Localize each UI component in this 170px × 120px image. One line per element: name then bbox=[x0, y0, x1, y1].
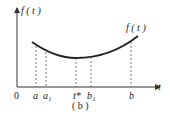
curve-label: f ( t ) bbox=[126, 22, 146, 33]
tick-label-a: a bbox=[33, 90, 38, 101]
origin-label: 0 bbox=[14, 90, 19, 101]
tick-label-a1: a₁ bbox=[43, 90, 51, 101]
tick-label-b: b bbox=[129, 90, 134, 101]
x-axis-label: t bbox=[158, 81, 161, 92]
caption: ( b ) bbox=[72, 100, 89, 111]
curve-f bbox=[32, 36, 138, 58]
y-axis-label: f ( t ) bbox=[21, 5, 41, 16]
